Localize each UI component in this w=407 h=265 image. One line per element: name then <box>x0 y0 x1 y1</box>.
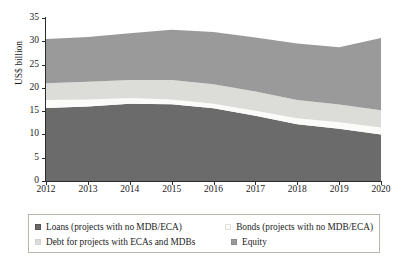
legend-label-loans: Loans (projects with no MDB/ECA) <box>46 222 182 232</box>
x-tick-label: 2015 <box>152 184 192 195</box>
x-tick-label: 2012 <box>26 184 66 195</box>
legend-label-debt: Debt for projects with ECAs and MDBs <box>46 237 195 247</box>
legend-swatch-equity <box>231 239 237 245</box>
y-tick-label: 15 <box>15 106 39 116</box>
legend-item-bonds[interactable]: Bonds (projects with no MDB/ECA) <box>225 222 373 232</box>
x-tick-label: 2017 <box>235 184 275 195</box>
y-tick-label: 35 <box>15 13 39 23</box>
legend-swatch-loans <box>35 224 41 230</box>
y-tick-label: 5 <box>15 153 39 163</box>
chart-figure: US$ billion 05101520253035 2012201320142… <box>0 0 407 265</box>
y-tick-label: 30 <box>15 36 39 46</box>
legend-item-debt[interactable]: Debt for projects with ECAs and MDBs <box>35 237 231 247</box>
chart-legend: Loans (projects with no MDB/ECA) Bonds (… <box>28 214 380 253</box>
x-tick-label: 2014 <box>110 184 150 195</box>
x-axis-line <box>45 181 382 182</box>
x-tick-label: 2016 <box>194 184 234 195</box>
plot-area <box>46 18 381 181</box>
x-tick-label: 2020 <box>361 184 401 195</box>
legend-swatch-bonds <box>225 224 231 230</box>
legend-label-bonds: Bonds (projects with no MDB/ECA) <box>236 222 373 232</box>
y-tick-label: 10 <box>15 129 39 139</box>
legend-row-2: Debt for projects with ECAs and MDBs Equ… <box>35 234 373 249</box>
legend-item-equity[interactable]: Equity <box>231 237 267 247</box>
x-tick-label: 2019 <box>319 184 359 195</box>
y-tick-label: 20 <box>15 83 39 93</box>
legend-item-loans[interactable]: Loans (projects with no MDB/ECA) <box>35 222 225 232</box>
stacked-area-svg <box>46 18 381 181</box>
legend-label-equity: Equity <box>242 237 267 247</box>
legend-swatch-debt <box>35 239 41 245</box>
x-tick-label: 2013 <box>68 184 108 195</box>
legend-row-1: Loans (projects with no MDB/ECA) Bonds (… <box>35 219 373 234</box>
x-tick-label: 2018 <box>277 184 317 195</box>
y-tick-label: 25 <box>15 60 39 70</box>
